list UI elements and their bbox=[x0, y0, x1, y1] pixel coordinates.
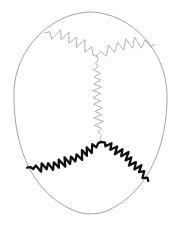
skull-diagram-canvas bbox=[0, 0, 181, 230]
skull-diagram-figure bbox=[0, 0, 181, 230]
